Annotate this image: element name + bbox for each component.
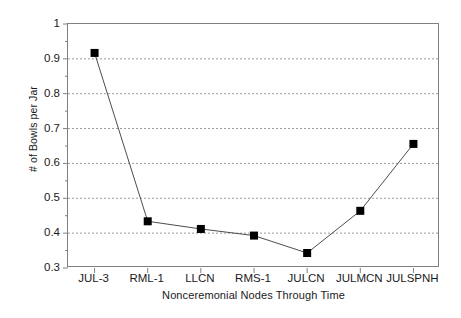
chart-figure: # of Bowls per Jar 0.30.40.50.60.70.80.9… <box>0 0 461 318</box>
x-axis-tick-label: JULCN <box>288 272 325 284</box>
x-axis-title: Nonceremonial Nodes Through Time <box>67 289 440 301</box>
data-point-marker <box>303 249 311 257</box>
y-axis-tick-label: 0.3 <box>2 261 60 273</box>
x-axis-tick-label: LLCN <box>185 272 214 284</box>
data-point-marker <box>409 140 417 148</box>
data-point-marker <box>356 207 364 215</box>
plot-area <box>67 23 439 267</box>
x-axis-tick-label: JULSPNH <box>386 272 438 284</box>
data-point-marker <box>144 217 152 225</box>
x-axis-tick-label: JUL-3 <box>78 272 109 284</box>
x-axis-tick-label: RML-1 <box>129 272 164 284</box>
plot-canvas <box>68 24 440 268</box>
x-axis-tick-label: RMS-1 <box>235 272 271 284</box>
data-point-marker <box>197 225 205 233</box>
data-series-line <box>95 53 414 253</box>
x-axis-tick-label: JULMCN <box>336 272 383 284</box>
y-axis-title: # of Bowls per Jar <box>27 34 39 224</box>
data-point-marker <box>250 232 258 240</box>
data-point-marker <box>91 49 99 57</box>
y-axis-tick-label: 0.4 <box>2 226 60 238</box>
y-axis-tick-label: 1 <box>2 17 60 29</box>
